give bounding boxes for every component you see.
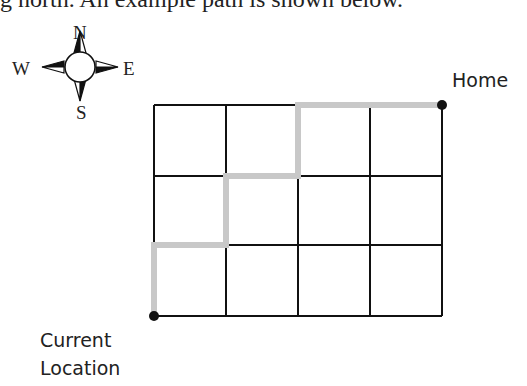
- start-marker: [149, 311, 159, 321]
- current-location-label-line2: Location: [40, 354, 120, 382]
- home-label: Home: [452, 66, 508, 94]
- compass-rose-icon: [42, 31, 118, 101]
- current-location-label-line1: Current: [40, 326, 111, 354]
- home-marker: [437, 100, 447, 110]
